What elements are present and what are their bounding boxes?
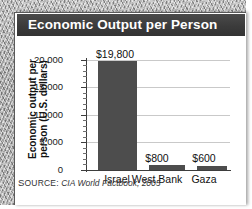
bar-value-israel: $19,800 (87, 48, 143, 60)
y-tick-label-5000: 5,000 (39, 137, 63, 147)
y-tick-label-20000: 20,000 (34, 55, 63, 65)
chart-title-bar: Economic Output per Person (17, 14, 245, 36)
chart-title: Economic Output per Person (28, 16, 217, 34)
y-tick-label-10000: 10,000 (34, 110, 63, 120)
bar-value-west-bank: $800 (131, 152, 183, 164)
x-category-label-gaza: Gaza (180, 173, 228, 185)
y-tick-major-0 (81, 170, 87, 171)
bar-value-gaza: $600 (180, 152, 228, 164)
y-tick-label-15000: 15,000 (34, 82, 63, 92)
bar-gaza (197, 166, 227, 170)
source-note: SOURCE: CIA World Factbook, 2005 (18, 178, 161, 188)
source-label-rest: OURCE: (25, 178, 59, 188)
bar-west-bank (149, 165, 185, 170)
chart-panel: Economic Output per Person Economic outp… (14, 12, 246, 205)
source-text: CIA World Factbook, 2005 (61, 178, 160, 188)
y-tick-label-0: 0 (58, 165, 63, 175)
x-axis-line (81, 170, 231, 171)
source-label: SOURCE: (18, 178, 59, 188)
